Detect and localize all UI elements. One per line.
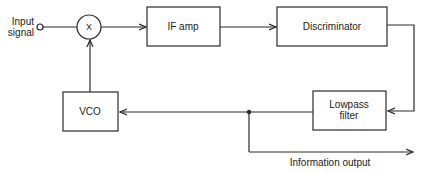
lowpass-filter-label: Lowpass filter (329, 99, 368, 121)
if-amp-label: IF amp (167, 21, 198, 32)
lowpass-filter-label-line2: filter (329, 110, 368, 121)
information-output-label: Information output (290, 157, 371, 168)
input-signal-label-line1: Input (4, 16, 34, 27)
lowpass-filter-label-line1: Lowpass (329, 99, 368, 110)
vco-label: VCO (79, 106, 101, 117)
discriminator-label: Discriminator (303, 21, 361, 32)
input-signal-label-line2: signal (4, 27, 34, 38)
discriminator-to-lpf-arrow (387, 25, 414, 111)
block-diagram (0, 0, 427, 173)
junction-dot (247, 110, 251, 114)
input-signal-label: Input signal (4, 16, 34, 38)
mixer-label: X (86, 22, 92, 33)
input-terminal (37, 24, 43, 30)
